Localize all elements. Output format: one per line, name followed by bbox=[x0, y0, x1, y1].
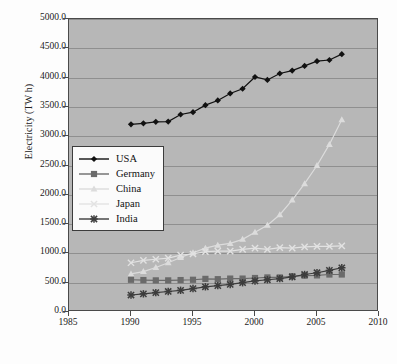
legend-marker-diamond-icon bbox=[77, 152, 111, 166]
y-axis-label: Electricity (TW h) bbox=[23, 42, 34, 202]
chart-figure: Electricity (TW h) 0.0500.01000.01500.02… bbox=[0, 0, 397, 364]
data-point-diamond bbox=[314, 58, 320, 64]
x-tick-label: 1985 bbox=[45, 318, 91, 328]
x-tick-label: 1995 bbox=[169, 318, 215, 328]
x-tick-mark bbox=[68, 311, 69, 316]
y-tick-label: 500.0 bbox=[6, 277, 66, 287]
legend-item-china[interactable]: China bbox=[77, 181, 155, 196]
x-tick-label: 2010 bbox=[355, 318, 397, 328]
data-point-square bbox=[91, 170, 97, 176]
data-point-triangle bbox=[326, 141, 333, 147]
data-point-diamond bbox=[178, 111, 184, 117]
data-point-diamond bbox=[128, 121, 134, 127]
data-point-asterisk bbox=[189, 285, 196, 292]
legend-marker-asterisk-icon bbox=[77, 212, 111, 226]
data-point-square bbox=[202, 276, 208, 282]
legend-label: Germany bbox=[111, 168, 155, 179]
data-point-diamond bbox=[264, 77, 270, 83]
series-usa bbox=[128, 51, 345, 127]
data-point-asterisk bbox=[90, 215, 97, 222]
data-point-asterisk bbox=[338, 264, 345, 271]
y-tick-label: 1000.0 bbox=[6, 247, 66, 257]
data-point-asterisk bbox=[140, 290, 147, 297]
data-point-diamond bbox=[140, 120, 146, 126]
data-point-square bbox=[339, 271, 345, 277]
data-point-asterisk bbox=[251, 277, 258, 284]
y-tick-label: 4000.0 bbox=[6, 72, 66, 82]
y-tick-label: 0.0 bbox=[6, 306, 66, 316]
x-tick-mark bbox=[192, 311, 193, 316]
data-point-diamond bbox=[302, 63, 308, 69]
data-point-asterisk bbox=[127, 291, 134, 298]
data-point-diamond bbox=[277, 70, 283, 76]
series-india bbox=[127, 264, 345, 299]
data-point-triangle bbox=[252, 229, 259, 235]
legend-label: Japan bbox=[111, 198, 140, 209]
data-point-diamond bbox=[339, 51, 345, 57]
data-point-asterisk bbox=[239, 279, 246, 286]
data-point-asterisk bbox=[289, 273, 296, 280]
data-point-asterisk bbox=[326, 267, 333, 274]
legend-item-japan[interactable]: Japan bbox=[77, 196, 155, 211]
legend-label: China bbox=[111, 183, 141, 194]
legend-item-usa[interactable]: USA bbox=[77, 151, 155, 166]
data-point-square bbox=[140, 277, 146, 283]
data-point-diamond bbox=[91, 155, 97, 161]
y-tick-label: 2500.0 bbox=[6, 160, 66, 170]
x-tick-mark bbox=[130, 311, 131, 316]
legend-marker-square-icon bbox=[77, 167, 111, 181]
data-point-square bbox=[153, 277, 159, 283]
data-point-square bbox=[215, 276, 221, 282]
x-tick-label: 2005 bbox=[293, 318, 339, 328]
data-point-asterisk bbox=[264, 276, 271, 283]
legend-label: India bbox=[111, 213, 138, 224]
data-point-triangle bbox=[314, 162, 321, 168]
x-tick-label: 2000 bbox=[231, 318, 277, 328]
data-point-asterisk bbox=[301, 271, 308, 278]
y-tick-label: 4500.0 bbox=[6, 42, 66, 52]
legend-marker-cross-icon bbox=[77, 197, 111, 211]
data-point-square bbox=[178, 277, 184, 283]
series-japan bbox=[128, 243, 345, 266]
y-tick-label: 2000.0 bbox=[6, 189, 66, 199]
legend-marker-triangle-icon bbox=[77, 182, 111, 196]
data-point-square bbox=[128, 277, 134, 283]
data-point-asterisk bbox=[227, 281, 234, 288]
data-point-diamond bbox=[326, 57, 332, 63]
data-point-diamond bbox=[190, 109, 196, 115]
data-point-asterisk bbox=[152, 289, 159, 296]
data-point-diamond bbox=[215, 97, 221, 103]
data-point-diamond bbox=[227, 90, 233, 96]
data-point-diamond bbox=[202, 102, 208, 108]
data-point-diamond bbox=[289, 67, 295, 73]
y-tick-label: 5000.0 bbox=[6, 13, 66, 23]
x-tick-mark bbox=[316, 311, 317, 316]
data-point-asterisk bbox=[177, 287, 184, 294]
y-tick-label: 3000.0 bbox=[6, 130, 66, 140]
legend-item-germany[interactable]: Germany bbox=[77, 166, 155, 181]
data-point-square bbox=[165, 277, 171, 283]
x-tick-mark bbox=[378, 311, 379, 316]
data-point-triangle bbox=[239, 236, 246, 242]
data-point-diamond bbox=[165, 118, 171, 124]
chart-legend: USAGermanyChinaJapanIndia bbox=[72, 146, 164, 231]
data-point-square bbox=[190, 277, 196, 283]
data-point-asterisk bbox=[276, 275, 283, 282]
data-point-diamond bbox=[153, 119, 159, 125]
y-tick-label: 1500.0 bbox=[6, 218, 66, 228]
data-point-triangle bbox=[338, 116, 345, 122]
x-tick-label: 1990 bbox=[107, 318, 153, 328]
data-point-asterisk bbox=[214, 282, 221, 289]
legend-label: USA bbox=[111, 153, 137, 164]
data-point-asterisk bbox=[313, 269, 320, 276]
data-point-asterisk bbox=[202, 283, 209, 290]
data-point-asterisk bbox=[165, 288, 172, 295]
legend-item-india[interactable]: India bbox=[77, 211, 155, 226]
x-tick-mark bbox=[254, 311, 255, 316]
y-tick-label: 3500.0 bbox=[6, 101, 66, 111]
